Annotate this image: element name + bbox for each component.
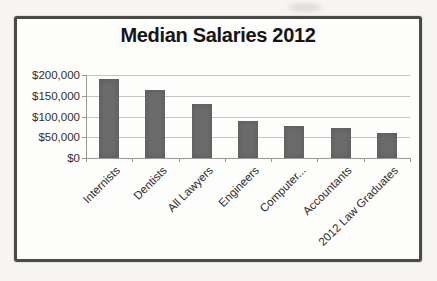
x-axis-tick	[225, 158, 226, 162]
y-axis-tick-label: $200,000	[32, 69, 80, 81]
x-axis-tick	[364, 158, 365, 162]
gridline	[86, 75, 410, 76]
bar	[145, 90, 165, 158]
x-axis-category-label: Dentists	[131, 164, 169, 202]
y-axis-tick-label: $150,000	[32, 90, 80, 102]
y-axis-tick-label: $0	[67, 152, 80, 164]
gridline	[86, 117, 410, 118]
x-axis-tick	[317, 158, 318, 162]
bar	[284, 126, 304, 158]
gridline	[86, 96, 410, 97]
photo-background: Median Salaries 2012 $0$50,000$100,000$1…	[0, 0, 437, 281]
chart-area: Median Salaries 2012 $0$50,000$100,000$1…	[0, 0, 437, 281]
x-axis-tick	[271, 158, 272, 162]
x-axis-category-label: Computer...	[257, 164, 308, 215]
bar	[331, 128, 351, 158]
bar	[99, 79, 119, 158]
bar	[192, 104, 212, 158]
x-axis-category-label: All Lawyers	[165, 164, 215, 214]
x-axis-tick	[132, 158, 133, 162]
x-axis-category-label: 2012 Law Graduates	[316, 164, 400, 248]
x-axis-tick	[179, 158, 180, 162]
y-axis-tick-label: $100,000	[32, 111, 80, 123]
x-axis-category-label: Internists	[81, 164, 122, 205]
x-axis-tick	[410, 158, 411, 162]
bar	[238, 121, 258, 158]
bar	[377, 133, 397, 158]
chart-title: Median Salaries 2012	[17, 24, 419, 47]
x-axis-tick	[86, 158, 87, 162]
y-axis-line	[86, 75, 87, 158]
x-axis-category-label: Engineers	[216, 164, 261, 209]
y-axis-tick-label: $50,000	[38, 131, 80, 143]
x-axis-line	[86, 158, 410, 159]
